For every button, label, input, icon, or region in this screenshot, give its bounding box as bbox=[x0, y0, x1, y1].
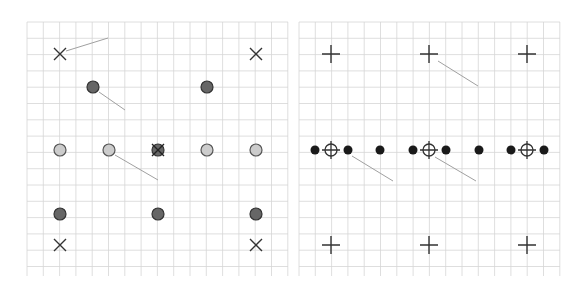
leader-line bbox=[99, 92, 125, 110]
right-panel bbox=[299, 22, 560, 276]
light-dot-marker-icon bbox=[201, 144, 213, 156]
cross-marker-icon bbox=[250, 239, 262, 251]
plus-marker-icon bbox=[518, 236, 536, 254]
black-dot-marker-icon bbox=[344, 146, 353, 155]
black-dot-marker-icon bbox=[540, 146, 549, 155]
plus-marker-icon bbox=[518, 45, 536, 63]
light-dot-marker-icon bbox=[103, 144, 115, 156]
diagram-canvas bbox=[0, 0, 586, 285]
dark-dot-marker-icon bbox=[54, 208, 66, 220]
leader-line bbox=[66, 38, 108, 51]
cross-marker-icon bbox=[54, 48, 66, 60]
black-dot-marker-icon bbox=[376, 146, 385, 155]
light-dot-marker-icon bbox=[250, 144, 262, 156]
light-dot-marker-icon bbox=[54, 144, 66, 156]
black-dot-marker-icon bbox=[507, 146, 516, 155]
dark-dot-marker-icon bbox=[250, 208, 262, 220]
target-marker-icon bbox=[322, 141, 340, 159]
black-dot-marker-icon bbox=[311, 146, 320, 155]
plus-marker-icon bbox=[420, 236, 438, 254]
cross-marker-icon bbox=[54, 239, 66, 251]
target-marker-icon bbox=[518, 141, 536, 159]
dark-dot-marker-icon bbox=[87, 81, 99, 93]
black-dot-marker-icon bbox=[475, 146, 484, 155]
left-panel bbox=[27, 22, 288, 276]
leader-line bbox=[115, 155, 158, 180]
plus-marker-icon bbox=[420, 45, 438, 63]
black-dot-marker-icon bbox=[442, 146, 451, 155]
target-marker-icon bbox=[420, 141, 438, 159]
leader-line bbox=[438, 61, 478, 86]
dark-dot-marker-icon bbox=[152, 208, 164, 220]
plus-marker-icon bbox=[322, 45, 340, 63]
dark-dot-marker-icon bbox=[201, 81, 213, 93]
dark-dot-cross-marker-icon bbox=[152, 144, 164, 156]
cross-marker-icon bbox=[250, 48, 262, 60]
black-dot-marker-icon bbox=[409, 146, 418, 155]
plus-marker-icon bbox=[322, 236, 340, 254]
